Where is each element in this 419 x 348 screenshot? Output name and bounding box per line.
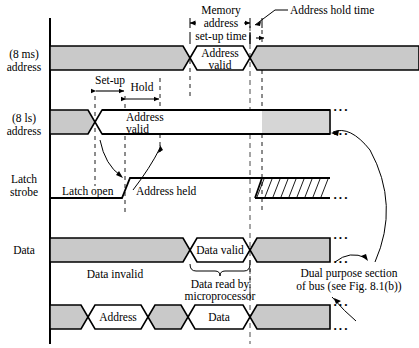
memory-setup-line1: Memory [201,4,241,17]
latch-open-leader-curve [100,140,121,176]
row-label-data: Data [13,244,35,256]
latch-strobe-continuation-dots: ··· [333,190,349,205]
hold-label: Hold [131,81,154,93]
timing-diagram-svg: (8 ms) address Address valid Memory addr… [0,0,419,348]
annotation-setup-hold: Set-up Hold [95,74,159,99]
data-invalid-label: Data invalid [87,268,144,280]
memory-setup-line2: address [204,17,239,29]
dual-purpose-line2: of bus (see Fig. 8.1(b)) [296,280,402,293]
address-held-leader-curve [133,148,160,190]
data-invalid-right [250,238,330,262]
ms-address-invalid-right [250,46,419,70]
row-label-ls-address-line1: (8 ls) [12,112,36,125]
setup-label: Set-up [95,74,125,87]
data-continuation-dots: ··· [333,230,349,245]
ls-address-valid-label-line2: valid [126,123,149,135]
row-label-ls-address-line2: address [7,125,42,137]
ls-address-invalid-left [50,110,95,134]
data-read-brace [190,264,250,276]
signal-bus: Address Data ··· ··· [50,297,349,336]
dual-purpose-line1: Dual purpose section [300,267,397,280]
ms-address-valid-label-line1: Address [201,47,239,59]
latch-open-label: Latch open [62,185,114,198]
bus-invalid-3 [250,305,330,329]
address-hold-leader-arrowhead [255,21,261,26]
ls-address-continuation-dots: ··· [333,102,349,117]
ls-address-valid-label-line1: Address [126,111,164,123]
annotation-memory-setup-time: Memory address set-up time [190,4,250,44]
dual-purpose-arrowhead-2 [361,254,368,261]
bus-address-label: Address [99,311,137,323]
memory-setup-line3: set-up time [195,30,246,43]
ms-address-valid-label-line2: valid [209,59,232,71]
timing-diagram-figure: (8 ms) address Address valid Memory addr… [0,0,419,348]
bus-continuation-dots2: ··· [333,321,349,336]
latch-strobe-hatching [257,179,328,197]
signal-ms-address: Address valid [50,46,419,71]
signal-latch-strobe: ··· Latch open Address held [50,140,349,205]
bus-invalid-2 [148,305,188,329]
address-held-label: Address held [136,185,197,197]
data-invalid-left [50,238,190,262]
latch-open-leader-arrowhead [116,171,123,178]
bus-data-label: Data [208,311,230,323]
bus-invalid-1 [50,305,88,329]
data-valid-label: Data valid [196,244,244,256]
annotation-address-hold-time: Address hold time [250,4,374,44]
row-label-ms-address-line1: (8 ms) [9,48,39,61]
annotation-dual-purpose: Dual purpose section of bus (see Fig. 8.… [296,130,402,321]
ms-address-invalid-left [50,46,190,70]
ls-address-dual-purpose-shade [262,111,329,133]
address-held-leader-arrowhead [158,145,163,153]
row-label-latch-line2: strobe [10,186,38,198]
address-hold-time-label: Address hold time [290,4,374,16]
row-label-latch-line1: Latch [11,173,37,185]
row-label-ms-address-line2: address [7,61,42,73]
data-read-label-line2: microprocessor [185,290,256,303]
